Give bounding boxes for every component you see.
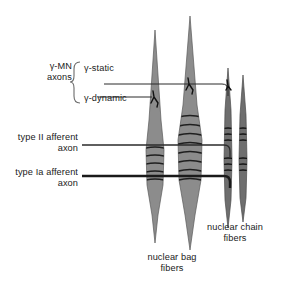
label-gamma-mn-axons: γ-MN axons — [6, 61, 72, 84]
label-gamma-dynamic: γ-dynamic — [84, 93, 154, 104]
label-type-ia-afferent-axon: type Ia afferent axon — [2, 167, 78, 190]
nuclear-bag-fiber-1 — [146, 30, 164, 243]
intrafusal-fiber-group — [146, 16, 247, 250]
nuclear-chain-fiber-2 — [239, 75, 247, 222]
label-gamma-static: γ-static — [84, 63, 146, 74]
label-nuclear-chain-fibers: nuclear chain fibers — [192, 222, 278, 245]
label-nuclear-bag-fibers: nuclear bag fibers — [128, 252, 216, 275]
label-type-ii-afferent-axon: type II afferent axon — [2, 132, 78, 155]
muscle-spindle-diagram: γ-MN axons γ-static γ-dynamic type II af… — [0, 0, 282, 289]
